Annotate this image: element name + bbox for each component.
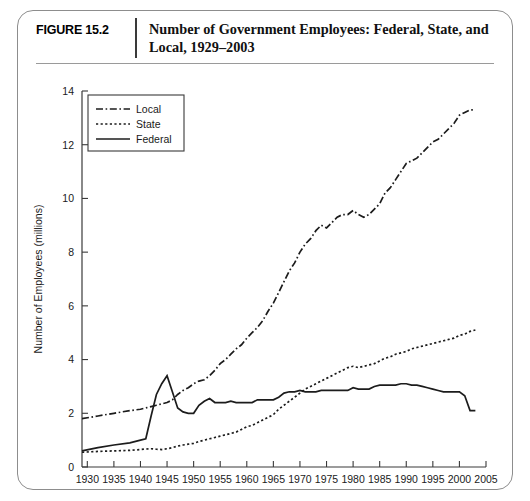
series-line-local: [82, 110, 475, 419]
y-tick-label-2: 2: [68, 407, 74, 419]
y-axis-title: Number of Employees (millions): [32, 205, 44, 354]
x-axis: 1930193519401945195019551960196519701975…: [76, 461, 498, 485]
x-tick-label-2000: 2000: [448, 473, 472, 485]
figure-frame: FIGURE 15.2 Number of Government Employe…: [17, 10, 513, 490]
line-chart: 02468101214 1930193519401945195019551960…: [18, 69, 514, 489]
y-tick-label-4: 4: [68, 353, 74, 365]
x-tick-label-1945: 1945: [155, 473, 179, 485]
chart-series-group: [82, 110, 475, 452]
series-line-federal: [82, 376, 475, 451]
y-tick-label-6: 6: [68, 300, 74, 312]
y-tick-label-0: 0: [68, 461, 74, 473]
x-tick-label-1965: 1965: [262, 473, 286, 485]
x-tick-label-1970: 1970: [288, 473, 312, 485]
header-vertical-divider: [135, 18, 137, 58]
legend-label-federal: Federal: [136, 133, 172, 145]
series-line-state: [82, 330, 475, 452]
figure-title: Number of Government Employees: Federal,…: [149, 21, 494, 56]
figure-number-label: FIGURE 15.2: [36, 23, 132, 37]
x-tick-label-1980: 1980: [341, 473, 365, 485]
x-tick-label-1940: 1940: [129, 473, 153, 485]
y-axis: 02468101214: [62, 85, 88, 473]
x-tick-label-1995: 1995: [421, 473, 445, 485]
x-tick-label-1935: 1935: [102, 473, 126, 485]
chart-plot-area: 02468101214 1930193519401945195019551960…: [18, 69, 514, 489]
header-horizontal-divider: [36, 63, 494, 64]
x-tick-label-1955: 1955: [209, 473, 233, 485]
x-tick-label-1975: 1975: [315, 473, 339, 485]
y-tick-label-14: 14: [62, 85, 74, 97]
legend-label-local: Local: [136, 103, 161, 115]
x-tick-label-1930: 1930: [76, 473, 100, 485]
legend-label-state: State: [136, 118, 161, 130]
x-tick-label-1985: 1985: [368, 473, 392, 485]
x-tick-label-1950: 1950: [182, 473, 206, 485]
chart-legend: LocalStateFederal: [88, 95, 184, 151]
y-tick-label-8: 8: [68, 246, 74, 258]
x-tick-label-1990: 1990: [395, 473, 419, 485]
y-tick-label-10: 10: [62, 192, 74, 204]
x-tick-label-2005: 2005: [474, 473, 498, 485]
y-tick-label-12: 12: [62, 139, 74, 151]
figure-header: FIGURE 15.2 Number of Government Employe…: [18, 11, 512, 69]
x-tick-label-1960: 1960: [235, 473, 259, 485]
